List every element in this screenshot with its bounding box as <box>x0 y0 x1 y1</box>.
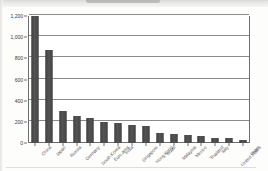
bar <box>87 118 94 143</box>
x-axis-category-labels: ChinaJapanRussiaGermanySouth KoreaEuro a… <box>28 145 250 171</box>
y-axis-tick-label: 400 <box>15 98 23 104</box>
y-axis-tick-mark <box>24 58 27 59</box>
bar <box>129 125 136 143</box>
bar-slot <box>70 16 84 143</box>
y-axis-tick-label: 1,000 <box>11 34 24 40</box>
bar-chart: 02004006008001,0001,200 ChinaJapanRussia… <box>0 7 268 171</box>
bar-slot <box>28 16 42 143</box>
bar-slot <box>111 16 125 143</box>
y-axis-tick-mark <box>24 37 27 38</box>
y-axis: 02004006008001,0001,200 <box>0 16 27 143</box>
bar <box>101 122 108 143</box>
y-axis-tick-mark <box>24 100 27 101</box>
bar-slot <box>97 16 111 143</box>
y-axis-tick-label: 200 <box>15 119 23 125</box>
y-axis-tick-label: 600 <box>15 77 23 83</box>
bar <box>142 126 149 143</box>
x-axis-category-label: Germany <box>84 145 101 162</box>
bar-slot <box>42 16 56 143</box>
scan-smudge-artifact <box>86 0 160 3</box>
bars-series <box>28 16 250 143</box>
bar <box>156 133 163 143</box>
bar <box>31 16 38 143</box>
y-axis-tick-mark <box>24 121 27 122</box>
y-axis-tick-mark <box>24 79 27 80</box>
y-axis-tick-mark <box>24 143 27 144</box>
bar <box>45 50 52 143</box>
bar <box>184 135 191 143</box>
bar <box>59 111 66 143</box>
gridline <box>29 14 249 15</box>
x-axis-category-label: China <box>41 145 53 157</box>
bar-slot <box>222 16 236 143</box>
bar-slot <box>56 16 70 143</box>
bar-slot <box>125 16 139 143</box>
x-axis-category-label: Israel <box>249 145 260 156</box>
bar <box>115 123 122 143</box>
y-axis-tick-mark <box>24 16 27 17</box>
bar-slot <box>195 16 209 143</box>
bar-slot <box>236 16 250 143</box>
bar-slot <box>167 16 181 143</box>
bar-slot <box>84 16 98 143</box>
bar-slot <box>208 16 222 143</box>
x-axis-category-label: Russia <box>69 145 82 158</box>
bar-slot <box>153 16 167 143</box>
y-axis-tick-label: 1,200 <box>11 13 24 19</box>
bar <box>170 134 177 143</box>
bar <box>73 116 80 143</box>
y-axis-tick-label: 0 <box>20 140 23 146</box>
bar-slot <box>181 16 195 143</box>
x-axis-category-label: Japan <box>55 145 67 157</box>
bar-slot <box>139 16 153 143</box>
y-axis-tick-label: 800 <box>15 55 23 61</box>
